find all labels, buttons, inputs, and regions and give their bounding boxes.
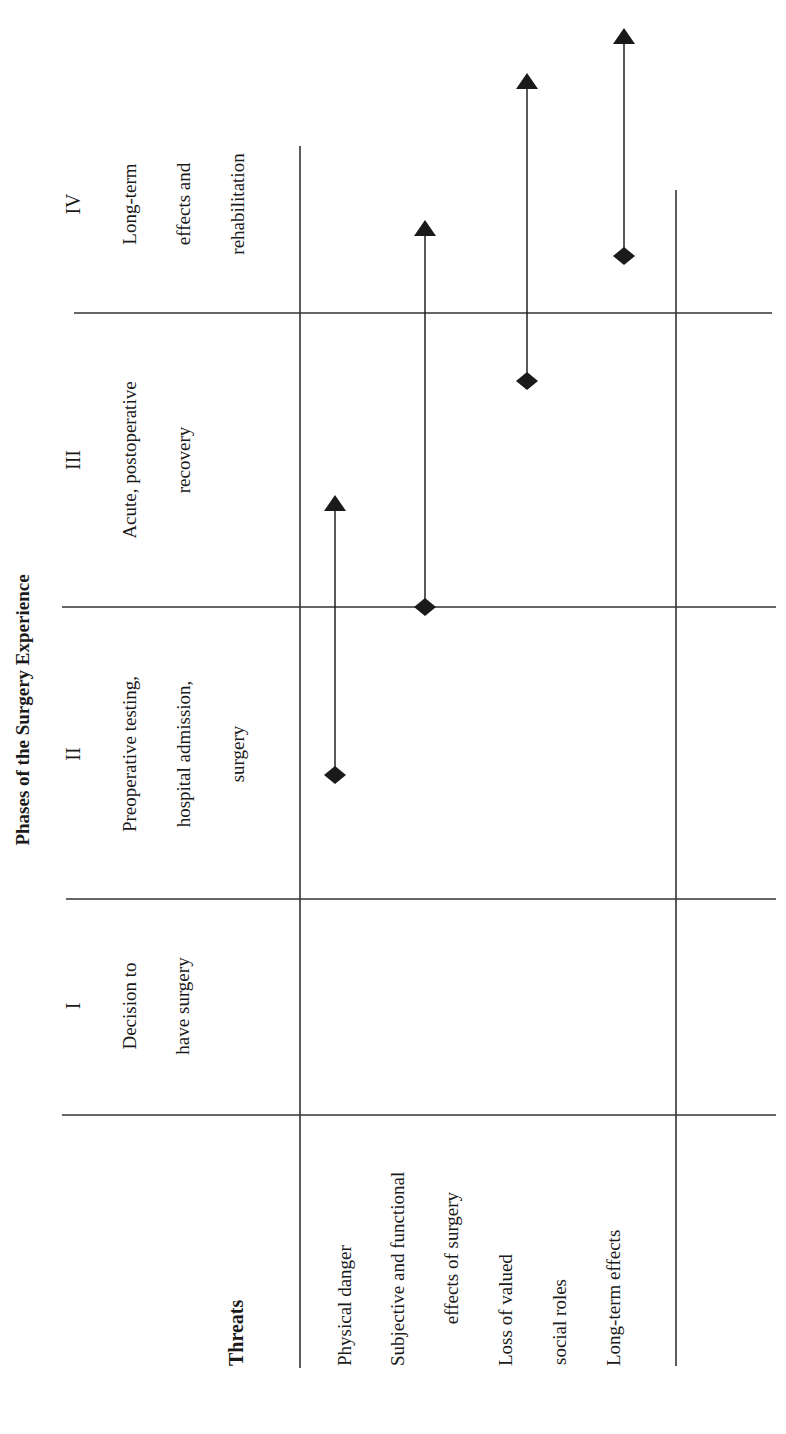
arrowhead-icon bbox=[613, 28, 635, 44]
threat-arrow-physical-danger bbox=[324, 495, 346, 784]
phase-numeral: IV bbox=[62, 193, 84, 215]
diagram-title: Phases of the Surgery Experience bbox=[12, 574, 33, 845]
diamond-start-marker bbox=[324, 766, 346, 784]
diamond-start-marker bbox=[516, 372, 538, 390]
diamond-start-marker bbox=[613, 247, 635, 265]
diamond-start-marker bbox=[414, 598, 436, 616]
phase-label-line: effects and bbox=[173, 162, 194, 245]
surgery-phases-diagram: Phases of the Surgery Experience I Decis… bbox=[0, 0, 786, 1434]
phase-label-line: surgery bbox=[227, 725, 248, 782]
threat-label-subjective-functional-2: effects of surgery bbox=[441, 1191, 462, 1324]
phase-label-line: Decision to bbox=[119, 962, 140, 1049]
threat-arrow-subjective-functional bbox=[414, 220, 436, 616]
phase-label-line: recovery bbox=[173, 426, 194, 493]
phase-label-line: Long-term bbox=[119, 163, 140, 244]
arrowhead-icon bbox=[324, 495, 346, 511]
threat-label-loss-of-roles: Loss of valued bbox=[495, 1254, 516, 1366]
threat-labels: Physical danger Subjective and functiona… bbox=[334, 1172, 624, 1366]
threat-arrow-long-term-effects bbox=[613, 28, 635, 265]
phase-label-line: rehabilitation bbox=[227, 153, 248, 255]
threat-label-physical-danger: Physical danger bbox=[334, 1244, 355, 1366]
arrowhead-icon bbox=[516, 73, 538, 89]
phase-label-line: Preoperative testing, bbox=[119, 676, 140, 832]
arrowhead-icon bbox=[414, 220, 436, 236]
phase-numeral: I bbox=[62, 1003, 84, 1010]
phase-label-line: Acute, postoperative bbox=[119, 381, 140, 538]
threat-arrow-loss-of-roles bbox=[516, 73, 538, 390]
phase-numeral: III bbox=[62, 450, 84, 470]
phase-I-header: I Decision to have surgery bbox=[62, 957, 193, 1055]
threats-header: Threats bbox=[225, 1299, 247, 1366]
phase-II-header: II Preoperative testing, hospital admiss… bbox=[62, 676, 248, 832]
threat-label-subjective-functional: Subjective and functional bbox=[387, 1172, 408, 1366]
phase-IV-header: IV Long-term effects and rehabilitation bbox=[62, 153, 248, 255]
table-grid bbox=[62, 146, 776, 1368]
threat-label-loss-of-roles-2: social roles bbox=[549, 1279, 570, 1365]
phase-numeral: II bbox=[62, 747, 84, 760]
phase-label-line: have surgery bbox=[172, 957, 193, 1055]
threat-label-long-term-effects: Long-term effects bbox=[603, 1230, 624, 1366]
phase-III-header: III Acute, postoperative recovery bbox=[62, 381, 194, 538]
phase-label-line: hospital admission, bbox=[173, 681, 194, 828]
